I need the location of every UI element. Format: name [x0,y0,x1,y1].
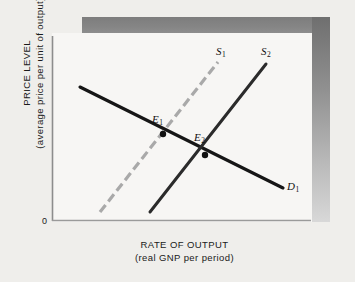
point-label-e1-text: E [152,113,159,125]
point-label-e2-subscript: 2 [201,136,205,145]
point-label-e2-text: E [194,131,201,143]
curve-label-s2: S2 [261,45,270,57]
curve-label-s2-subscript: 2 [267,50,271,59]
point-label-e1-subscript: 1 [159,118,163,127]
y-axis-subtitle: (average price per unit of output) [33,0,46,168]
curve-label-s1-subscript: 1 [222,50,226,59]
curve-label-d1-subscript: 1 [295,185,299,194]
supply-curve-s2 [150,64,266,212]
curve-label-s1: S1 [216,45,225,57]
equilibrium-point-e1 [160,131,166,137]
y-axis-label: PRICE LEVEL (average price per unit of o… [20,0,46,168]
y-axis-title: PRICE LEVEL [20,0,33,168]
x-axis-title: RATE OF OUTPUT [62,238,307,251]
curve-label-d1: D1 [287,180,299,192]
point-label-e2: E2 [194,131,204,143]
curve-label-d1-text: D [287,180,295,192]
origin-label: 0 [42,216,47,226]
economics-figure: PRICE LEVEL (average price per unit of o… [0,0,355,282]
curve-label-s1-text: S [216,45,222,57]
curve-label-s2-text: S [261,45,267,57]
x-axis-subtitle: (real GNP per period) [62,251,307,264]
point-label-e1: E1 [152,113,162,125]
x-axis-label: RATE OF OUTPUT (real GNP per period) [62,238,307,264]
equilibrium-point-e2 [202,152,208,158]
